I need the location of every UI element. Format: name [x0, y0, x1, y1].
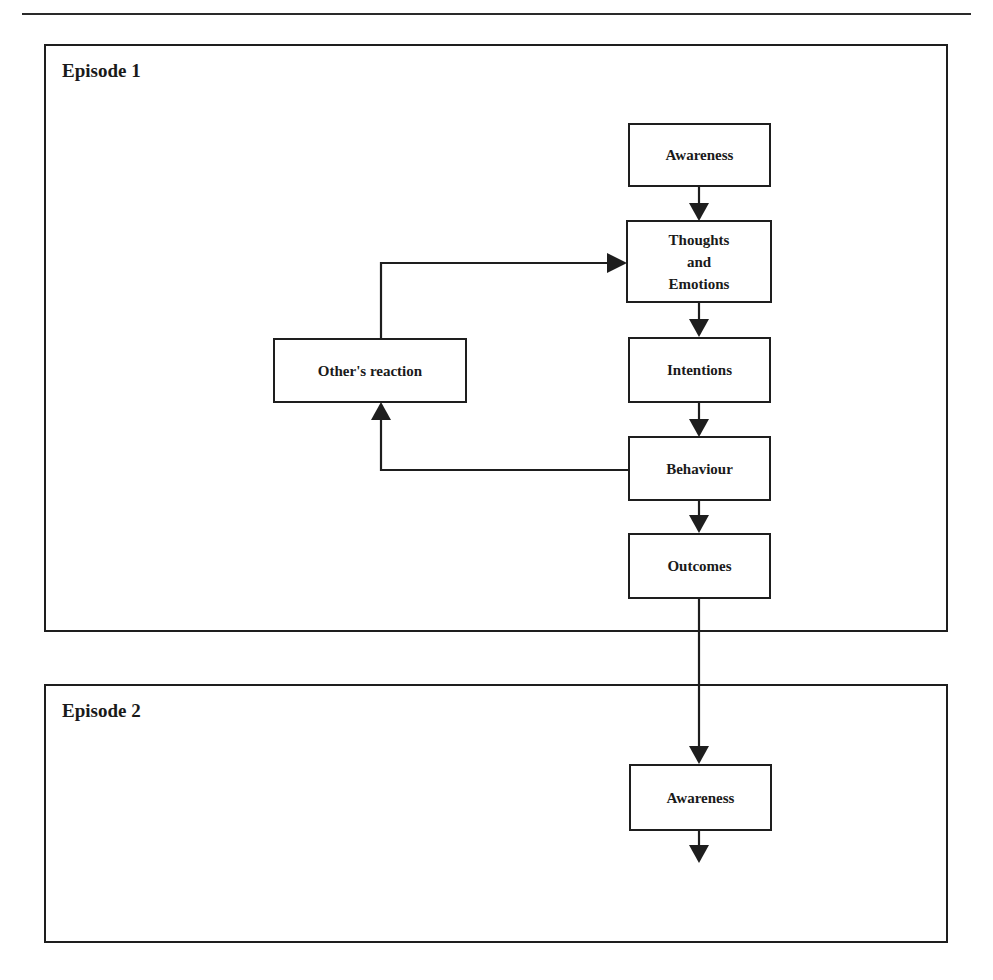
episode-2-frame: Episode 2 — [44, 684, 948, 943]
node-awareness-label: Awareness — [666, 144, 734, 166]
episode-2-label: Episode 2 — [62, 700, 141, 722]
node-behaviour-label: Behaviour — [666, 458, 733, 480]
node-awareness-2-label: Awareness — [667, 787, 735, 809]
node-thoughts-label-line2: and — [687, 251, 711, 273]
node-others-reaction: Other's reaction — [273, 338, 467, 403]
node-thoughts-label-line1: Thoughts — [669, 229, 730, 251]
node-awareness-episode-1: Awareness — [628, 123, 771, 187]
node-intentions: Intentions — [628, 337, 771, 403]
node-intentions-label: Intentions — [667, 359, 732, 381]
node-thoughts-and-emotions: Thoughts and Emotions — [626, 220, 772, 303]
node-outcomes-label: Outcomes — [667, 555, 731, 577]
node-outcomes: Outcomes — [628, 533, 771, 599]
episode-1-frame: Episode 1 — [44, 44, 948, 632]
node-behaviour: Behaviour — [628, 436, 771, 501]
node-thoughts-label-line3: Emotions — [669, 273, 730, 295]
page-top-rule — [22, 13, 971, 15]
node-awareness-episode-2: Awareness — [629, 764, 772, 831]
node-others-reaction-label: Other's reaction — [318, 360, 422, 382]
episode-1-label: Episode 1 — [62, 60, 141, 82]
